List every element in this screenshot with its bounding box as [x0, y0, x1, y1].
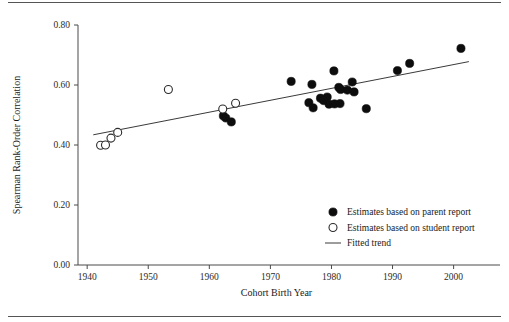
data-point-student-report: [232, 99, 240, 107]
y-tick-label: 0.00: [53, 260, 70, 270]
data-point-parent-report: [309, 104, 317, 112]
legend-marker-filled-circle-icon: [329, 208, 337, 216]
data-point-parent-report: [348, 78, 356, 86]
series-student-report-points: [97, 86, 240, 150]
legend-item-label: Fitted trend: [347, 238, 391, 248]
fitted-trend-group: [93, 62, 469, 135]
fitted-trend-line: [93, 62, 469, 135]
y-tick-label: 0.80: [53, 20, 70, 30]
x-tick-label: 2000: [444, 272, 463, 282]
scatter-plot: 0.000.200.400.600.80 1940195019601970198…: [0, 0, 509, 322]
data-point-parent-report: [350, 88, 358, 96]
data-point-student-report: [114, 128, 122, 136]
x-tick-label: 1950: [139, 272, 158, 282]
data-point-student-report: [219, 105, 227, 113]
figure-container: 0.000.200.400.600.80 1940195019601970198…: [0, 0, 509, 322]
y-axis-ticks: 0.000.200.400.600.80: [53, 20, 78, 270]
legend-item-label: Estimates based on parent report: [347, 207, 471, 217]
data-point-parent-report: [362, 105, 370, 113]
data-point-student-report: [107, 134, 115, 142]
data-point-parent-report: [287, 77, 295, 85]
data-point-parent-report: [457, 44, 465, 52]
data-point-parent-report: [330, 67, 338, 75]
y-tick-label: 0.20: [53, 200, 70, 210]
x-tick-label: 1980: [322, 272, 341, 282]
y-axis-title: Spearman Rank-Order Correlation: [11, 76, 22, 214]
x-tick-label: 1970: [261, 272, 280, 282]
x-axis-title: Cohort Birth Year: [241, 287, 313, 298]
chart-legend: Estimates based on parent reportEstimate…: [325, 207, 475, 248]
data-point-parent-report: [336, 100, 344, 108]
data-point-parent-report: [406, 59, 414, 67]
y-tick-label: 0.60: [53, 80, 70, 90]
data-point-parent-report: [393, 67, 401, 75]
y-tick-label: 0.40: [53, 140, 70, 150]
x-axis-ticks: 1940195019601970198019902000: [78, 265, 464, 282]
data-point-parent-report: [227, 118, 235, 126]
x-tick-label: 1940: [78, 272, 97, 282]
x-tick-label: 1960: [200, 272, 219, 282]
data-point-parent-report: [308, 80, 316, 88]
series-parent-report-points: [219, 44, 465, 126]
legend-item-label: Estimates based on student report: [347, 223, 475, 233]
data-point-student-report: [164, 86, 172, 94]
data-point-parent-report: [323, 93, 331, 101]
x-tick-label: 1990: [383, 272, 402, 282]
data-point-student-report: [101, 141, 109, 149]
legend-marker-open-circle-icon: [329, 224, 337, 232]
